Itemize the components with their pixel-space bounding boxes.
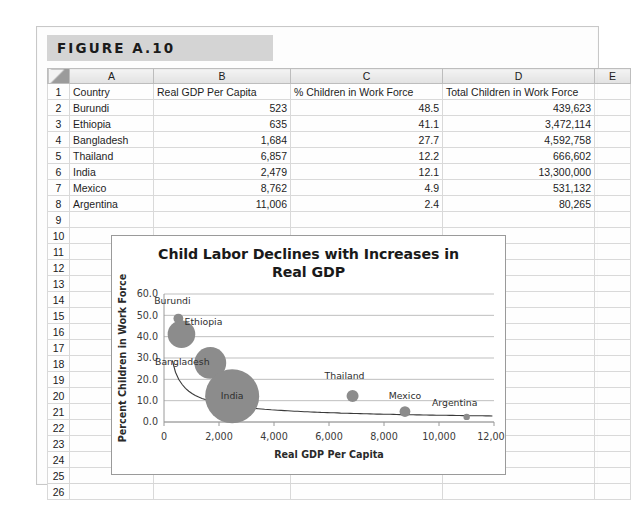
column-header-a[interactable]: A [70,69,154,84]
cell-D4[interactable]: 4,592,758 [443,132,595,148]
table-row[interactable]: 8Argentina11,0062.480,265 [48,196,631,212]
row-header-25[interactable]: 25 [48,468,70,484]
row-header-4[interactable]: 4 [48,132,70,148]
cell-E18[interactable] [595,356,631,372]
cell-A1[interactable]: Country [70,84,154,100]
cell-D8[interactable]: 80,265 [443,196,595,212]
cell-E10[interactable] [595,228,631,244]
cell-A9[interactable] [70,212,154,228]
cell-C1[interactable]: % Children in Work Force [291,84,443,100]
cell-D9[interactable] [443,212,595,228]
cell-E15[interactable] [595,308,631,324]
cell-E9[interactable] [595,212,631,228]
cell-A7[interactable]: Mexico [70,180,154,196]
row-header-20[interactable]: 20 [48,388,70,404]
cell-D7[interactable]: 531,132 [443,180,595,196]
cell-E13[interactable] [595,276,631,292]
cell-E6[interactable] [595,164,631,180]
table-row[interactable]: 6India2,47912.113,300,000 [48,164,631,180]
cell-E19[interactable] [595,372,631,388]
row-header-22[interactable]: 22 [48,420,70,436]
cell-E21[interactable] [595,404,631,420]
row-header-7[interactable]: 7 [48,180,70,196]
table-row[interactable]: 26 [48,484,631,500]
cell-D26[interactable] [443,484,595,500]
cell-A26[interactable] [70,484,154,500]
row-header-3[interactable]: 3 [48,116,70,132]
cell-E26[interactable] [595,484,631,500]
cell-C3[interactable]: 41.1 [291,116,443,132]
row-header-10[interactable]: 10 [48,228,70,244]
cell-E7[interactable] [595,180,631,196]
column-header-b[interactable]: B [154,69,291,84]
cell-C5[interactable]: 12.2 [291,148,443,164]
bubble-argentina[interactable] [463,414,469,420]
cell-C7[interactable]: 4.9 [291,180,443,196]
row-header-11[interactable]: 11 [48,244,70,260]
bubble-thailand[interactable] [347,390,359,402]
cell-E2[interactable] [595,100,631,116]
cell-E8[interactable] [595,196,631,212]
row-header-13[interactable]: 13 [48,276,70,292]
row-header-12[interactable]: 12 [48,260,70,276]
select-all-corner-icon[interactable] [48,69,70,84]
cell-D2[interactable]: 439,623 [443,100,595,116]
cell-C6[interactable]: 12.1 [291,164,443,180]
cell-E14[interactable] [595,292,631,308]
cell-B7[interactable]: 8,762 [154,180,291,196]
row-header-8[interactable]: 8 [48,196,70,212]
row-header-1[interactable]: 1 [48,84,70,100]
cell-E1[interactable] [595,84,631,100]
table-row[interactable]: 9 [48,212,631,228]
row-header-15[interactable]: 15 [48,308,70,324]
cell-B6[interactable]: 2,479 [154,164,291,180]
bubble-chart[interactable]: Child Labor Declines with Increases inRe… [111,235,506,475]
row-header-23[interactable]: 23 [48,436,70,452]
bubble-mexico[interactable] [400,406,411,417]
cell-C2[interactable]: 48.5 [291,100,443,116]
cell-C26[interactable] [291,484,443,500]
cell-D5[interactable]: 666,602 [443,148,595,164]
cell-E4[interactable] [595,132,631,148]
table-row[interactable]: 4Bangladesh1,68427.74,592,758 [48,132,631,148]
cell-D3[interactable]: 3,472,114 [443,116,595,132]
cell-C9[interactable] [291,212,443,228]
cell-D6[interactable]: 13,300,000 [443,164,595,180]
cell-A8[interactable]: Argentina [70,196,154,212]
cell-E22[interactable] [595,420,631,436]
row-header-19[interactable]: 19 [48,372,70,388]
cell-A2[interactable]: Burundi [70,100,154,116]
cell-B8[interactable]: 11,006 [154,196,291,212]
cell-E23[interactable] [595,436,631,452]
cell-B26[interactable] [154,484,291,500]
cell-B1[interactable]: Real GDP Per Capita [154,84,291,100]
row-header-21[interactable]: 21 [48,404,70,420]
row-header-14[interactable]: 14 [48,292,70,308]
column-header-d[interactable]: D [443,69,595,84]
table-row[interactable]: 3Ethiopia63541.13,472,114 [48,116,631,132]
table-row[interactable]: 7Mexico8,7624.9531,132 [48,180,631,196]
row-header-9[interactable]: 9 [48,212,70,228]
cell-E12[interactable] [595,260,631,276]
cell-B5[interactable]: 6,857 [154,148,291,164]
table-row[interactable]: 5Thailand6,85712.2666,602 [48,148,631,164]
row-header-24[interactable]: 24 [48,452,70,468]
cell-E3[interactable] [595,116,631,132]
row-header-16[interactable]: 16 [48,324,70,340]
cell-E5[interactable] [595,148,631,164]
column-header-e[interactable]: E [595,69,631,84]
cell-E16[interactable] [595,324,631,340]
cell-A4[interactable]: Bangladesh [70,132,154,148]
cell-B4[interactable]: 1,684 [154,132,291,148]
table-row[interactable]: 2Burundi52348.5439,623 [48,100,631,116]
row-header-17[interactable]: 17 [48,340,70,356]
cell-A3[interactable]: Ethiopia [70,116,154,132]
table-row[interactable]: 1CountryReal GDP Per Capita% Children in… [48,84,631,100]
row-header-2[interactable]: 2 [48,100,70,116]
cell-C4[interactable]: 27.7 [291,132,443,148]
cell-B3[interactable]: 635 [154,116,291,132]
cell-E25[interactable] [595,468,631,484]
cell-E20[interactable] [595,388,631,404]
cell-B9[interactable] [154,212,291,228]
row-header-18[interactable]: 18 [48,356,70,372]
